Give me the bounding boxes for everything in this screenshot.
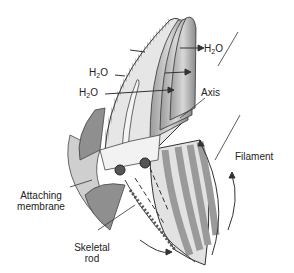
water-mid-label: H2O: [89, 67, 108, 81]
skeletal-rod-label: Skeletal rod: [70, 242, 114, 264]
water-in-label: H2O: [79, 87, 98, 101]
axis-label: Axis: [201, 87, 220, 98]
gill-diagram: H2O H2O H2O Axis Filament Attaching memb…: [0, 0, 294, 273]
skeletal-rod-line2: rod: [70, 253, 114, 264]
water-out-label: H2O: [204, 43, 223, 57]
skeletal-rod-line1: Skeletal: [70, 242, 114, 253]
gill-illustration: [0, 0, 294, 273]
filament-label: Filament: [235, 151, 273, 162]
attaching-membrane-line1: Attaching: [16, 190, 66, 201]
attaching-membrane-line2: membrane: [16, 201, 66, 212]
attaching-membrane-label: Attaching membrane: [16, 190, 66, 212]
